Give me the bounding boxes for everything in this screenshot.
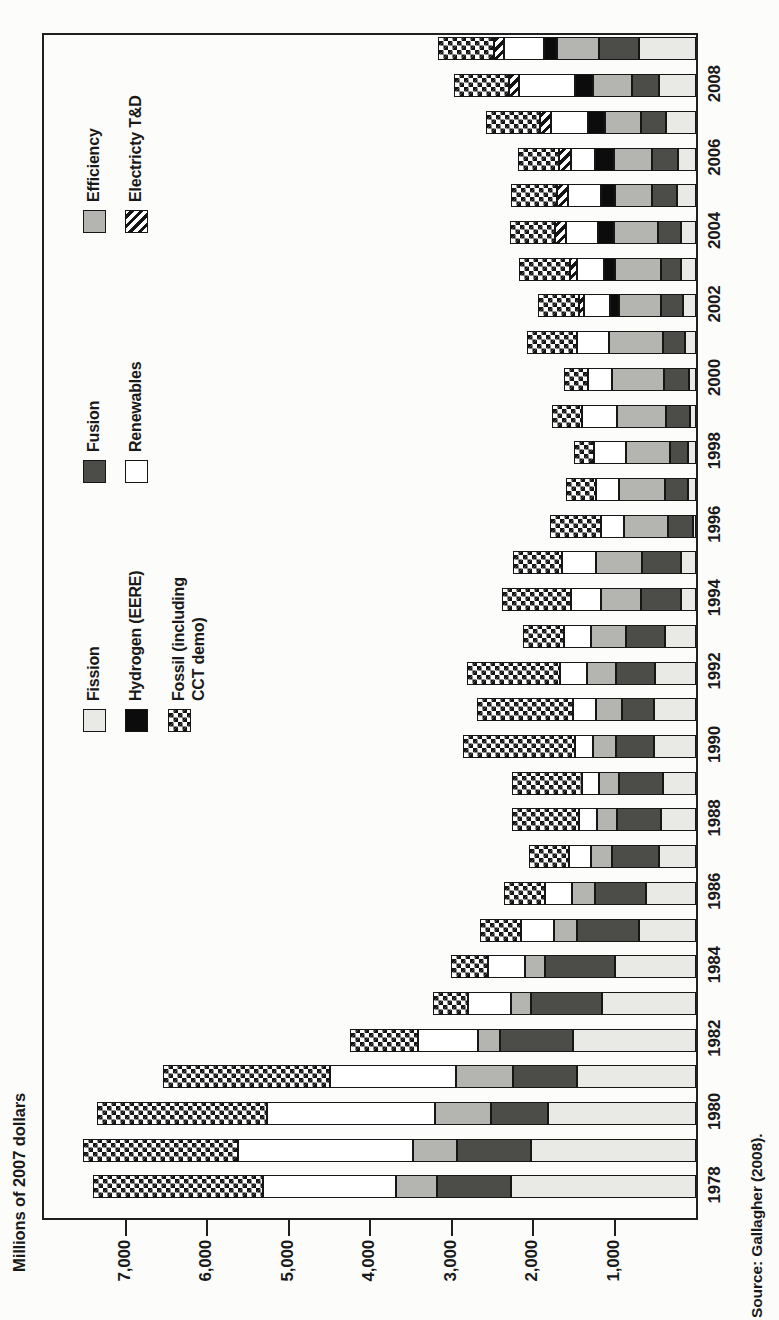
segment-2004-hydrogen-eere- [598,221,614,244]
segment-1997-renewables [596,478,619,501]
segment-1982-fusion [500,1029,573,1052]
segment-2002-hydrogen-eere- [610,294,619,317]
segment-1988-renewables [579,808,597,831]
value-axis-title: Millions of 2007 dollars [10,1093,29,1272]
segment-1997-fission [688,478,696,501]
segment-1996-fusion [668,515,692,538]
segment-1987-efficiency [591,845,612,868]
year-label-1986: 1986 [705,859,725,923]
segment-2005-fission [677,184,696,207]
year-label-2002: 2002 [705,272,725,336]
segment-1985-fusion [577,919,640,942]
segment-1979-renewables [238,1139,413,1162]
segment-1989-fission [663,772,696,795]
segment-1984-renewables [488,955,525,978]
year-label-1996: 1996 [705,492,725,556]
segment-2000-efficiency [612,368,663,391]
segment-2008-electricty-t-d [509,74,519,97]
segment-1985-renewables [521,919,554,942]
bar-1982 [350,1029,696,1052]
legend-swatch [83,709,106,732]
value-tick-label: 5,000 [278,1240,298,1312]
segment-1991-efficiency [596,698,622,721]
year-label-2008: 2008 [705,52,725,116]
legend-swatch [83,460,106,483]
segment-1986-fossil-including-cct-demo- [504,882,546,905]
segment-1999-fission [690,405,696,428]
legend-swatch [125,709,148,732]
year-label-1988: 1988 [705,786,725,850]
segment-1978-fission [511,1176,696,1199]
segment-1982-fission [573,1029,696,1052]
segment-1980-fusion [491,1102,548,1125]
segment-1986-efficiency [572,882,595,905]
segment-2005-renewables [568,184,601,207]
segment-1997-fusion [665,478,688,501]
segment-2007-fission [666,111,696,134]
year-label-1994: 1994 [705,566,725,630]
segment-1985-efficiency [554,919,577,942]
segment-1990-fusion [616,735,654,758]
segment-2001-fusion [663,331,685,354]
segment-1980-efficiency [435,1102,490,1125]
segment-1984-fission [615,955,697,978]
segment-1988-fission [661,808,696,831]
segment-1994-fission [681,588,696,611]
value-tick-1000 [614,1219,616,1236]
segment-1983-efficiency [511,992,531,1015]
segment-1978-fusion [437,1176,510,1199]
segment-2006-fusion [652,148,677,171]
segment-1996-fission [693,515,696,538]
chart-canvas: Millions of 2007 dollars 7,0006,0005,000… [0,0,779,1320]
bar-2000 [564,368,696,391]
legend-swatch [125,210,148,233]
segment-2002-renewables [584,294,611,317]
segment-1993-fusion [626,625,666,648]
segment-2001-renewables [577,331,610,354]
value-tick-6000 [206,1219,208,1236]
segment-1998-fusion [670,441,688,464]
legend-label: Renewables [126,362,146,453]
segment-1992-efficiency [587,662,616,685]
segment-2008-fossil-including-cct-demo- [454,74,509,97]
segment-2008-efficiency [593,74,633,97]
segment-1995-efficiency [596,551,642,574]
segment-1979-fossil-including-cct-demo- [83,1139,238,1162]
segment-2000-fusion [664,368,689,391]
value-tick-label: 1,000 [604,1240,624,1312]
segment-1985-fission [639,919,696,942]
legend-label: Fusion [84,401,104,452]
segment-1994-fusion [641,588,682,611]
bar-2005 [511,184,696,207]
year-label-1984: 1984 [705,933,725,997]
segment-2004-fossil-including-cct-demo- [510,221,556,244]
segment-1995-fusion [642,551,682,574]
year-label-1998: 1998 [705,419,725,483]
segment-1986-renewables [545,882,572,905]
legend-swatch [83,210,106,233]
legend-entry-efficiency: Efficiency [83,128,106,233]
bar-1995 [513,551,696,574]
bar-1993 [523,625,696,648]
value-tick-label: 6,000 [196,1240,216,1312]
segment-1990-fission [654,735,696,758]
segment-1996-renewables [601,515,624,538]
legend-label: Fossil (including CCT demo) [169,577,209,701]
segment-1983-renewables [468,992,511,1015]
segment-2007-efficiency [605,111,642,134]
segment-1990-fossil-including-cct-demo- [463,735,575,758]
segment-2007-fusion [641,111,665,134]
bar-1991 [477,698,696,721]
segment-1987-renewables [569,845,591,868]
segment-1991-renewables [573,698,597,721]
legend-label: Electricty T&D [126,95,146,202]
segment-2009-electricty-t-d [494,38,504,61]
segment-2008-fusion [632,74,658,97]
segment-2003-fossil-including-cct-demo- [519,258,570,281]
bar-2007 [486,111,696,134]
bar-1985 [480,919,696,942]
bar-1999 [552,405,696,428]
value-tick-5000 [288,1219,290,1236]
segment-2009-hydrogen-eere- [544,38,557,61]
segment-1983-fossil-including-cct-demo- [433,992,468,1015]
